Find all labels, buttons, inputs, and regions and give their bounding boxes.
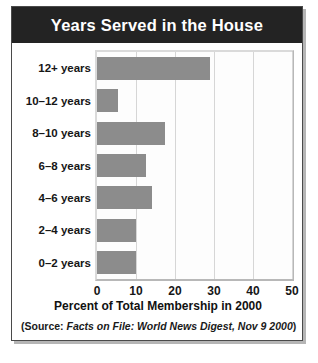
x-tick-label: 10 <box>116 283 156 299</box>
category-label: 6–8 years <box>13 159 91 173</box>
chart-figure: Years Served in the House 12+ years10–12… <box>11 6 303 341</box>
bar-row <box>97 251 292 274</box>
bar <box>97 186 152 209</box>
bar-row <box>97 154 292 177</box>
x-axis-ticks: 01020304050 <box>95 283 294 299</box>
bar-row <box>97 186 292 209</box>
bar <box>97 122 165 145</box>
plot-area <box>95 50 294 281</box>
gridline <box>292 52 293 279</box>
bar-row <box>97 219 292 242</box>
category-axis-labels: 12+ years10–12 years8–10 years6–8 years4… <box>12 50 91 281</box>
bar <box>97 154 146 177</box>
bar <box>97 219 136 242</box>
category-label: 0–2 years <box>13 256 91 270</box>
bar-row <box>97 57 292 80</box>
x-tick-label: 0 <box>77 283 117 299</box>
category-label: 12+ years <box>13 61 91 75</box>
category-label: 2–4 years <box>13 223 91 237</box>
x-tick-label: 40 <box>233 283 273 299</box>
bar-row <box>97 122 292 145</box>
source-citation: Facts on File: World News Digest, Nov 9 … <box>67 320 293 332</box>
source-prefix: (Source: <box>21 320 67 332</box>
bar <box>97 251 136 274</box>
chart-title-bar: Years Served in the House <box>12 7 302 43</box>
bar <box>97 89 118 112</box>
chart-title: Years Served in the House <box>12 7 302 43</box>
x-tick-label: 20 <box>155 283 195 299</box>
category-label: 4–6 years <box>13 191 91 205</box>
x-tick-label: 50 <box>272 283 312 299</box>
source-suffix: ) <box>293 320 297 332</box>
category-label: 10–12 years <box>13 94 91 108</box>
bar-row <box>97 89 292 112</box>
x-tick-label: 30 <box>194 283 234 299</box>
bar <box>97 57 210 80</box>
chart-body: 12+ years10–12 years8–10 years6–8 years4… <box>12 43 304 342</box>
source-note: (Source: Facts on File: World News Diges… <box>21 320 299 332</box>
category-label: 8–10 years <box>13 126 91 140</box>
x-axis-label: Percent of Total Membership in 2000 <box>12 299 304 313</box>
